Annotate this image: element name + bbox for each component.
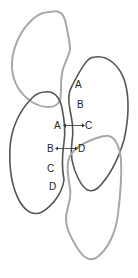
bottom-right-blob-outline bbox=[66, 136, 121, 259]
label-a-top: A bbox=[75, 79, 82, 90]
arrow1-label-a: A bbox=[54, 120, 61, 131]
label-b-top: B bbox=[77, 99, 84, 110]
arrow2-label-d: D bbox=[78, 143, 85, 154]
middle-left-blob-outline bbox=[10, 92, 65, 214]
diagram-canvas: A B A C B D C D bbox=[0, 0, 138, 278]
arrow1-label-c: C bbox=[85, 120, 92, 131]
arrow2-label-b: B bbox=[47, 143, 54, 154]
right-blob-outline bbox=[69, 57, 128, 191]
label-d-bottom: D bbox=[49, 181, 56, 192]
bidirectional-arrow-a-c bbox=[63, 124, 85, 128]
label-c-bottom: C bbox=[47, 163, 54, 174]
